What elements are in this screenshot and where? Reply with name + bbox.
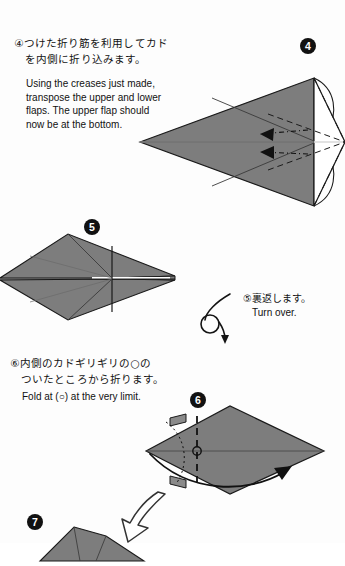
step-4-diagram: [140, 62, 345, 222]
step-5-caption-en: Turn over.: [252, 306, 297, 319]
flip-arrowhead: [221, 335, 229, 344]
step-6-diagram: [128, 402, 345, 497]
progress-arrow-outline: [122, 492, 165, 542]
paper-lower-gray: [0, 279, 175, 320]
flap-tab-upper: [170, 414, 186, 426]
step-5-caption-jp: ⑤裏返します。: [243, 292, 311, 306]
progress-arrow-icon: [108, 492, 178, 547]
flip-arc: [205, 294, 230, 320]
step-4-badge: 4: [300, 38, 316, 54]
turn-over-arrow-icon: [196, 292, 248, 344]
flip-loop: [201, 315, 219, 333]
step-6-instruction-jp: ⑥内側のカドギリギリの○の ついたところから折ります。: [10, 356, 205, 387]
